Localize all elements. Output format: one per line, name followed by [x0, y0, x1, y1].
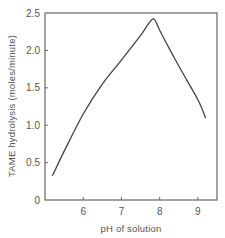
x-tick-label: 8 — [157, 206, 163, 217]
line-chart: 00.51.01.52.02.5 6789 pH of solution TAM… — [0, 0, 225, 238]
x-tick-label: 9 — [195, 206, 201, 217]
x-axis-title: pH of solution — [101, 223, 162, 234]
chart-canvas: 00.51.01.52.02.5 6789 pH of solution TAM… — [0, 0, 225, 238]
y-tick-label: 0 — [34, 195, 40, 206]
y-tick-label: 1.0 — [26, 120, 40, 131]
x-tick-label: 6 — [80, 206, 86, 217]
plot-frame — [45, 13, 217, 200]
y-tick-label: 2.0 — [26, 45, 40, 56]
x-tick-label: 7 — [119, 206, 125, 217]
data-line — [53, 19, 206, 175]
y-tick-label: 2.5 — [26, 8, 40, 19]
y-tick-label: 0.5 — [26, 157, 40, 168]
y-tick-label: 1.5 — [26, 82, 40, 93]
y-axis-title: TAME hydrolysis (moles/minute) — [6, 35, 17, 177]
